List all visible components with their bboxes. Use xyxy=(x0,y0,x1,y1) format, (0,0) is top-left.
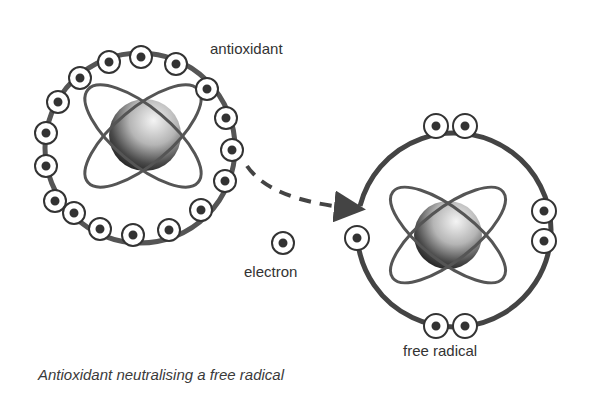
electron-icon xyxy=(190,199,212,221)
electron-icon xyxy=(130,46,152,68)
electron-icon xyxy=(221,139,243,161)
electron-icon xyxy=(44,190,66,212)
electron-icon xyxy=(532,229,556,253)
antioxidant-molecule xyxy=(35,46,243,246)
free-electron-icon xyxy=(272,232,294,254)
electron-icon xyxy=(196,78,218,100)
electron-icon xyxy=(453,114,477,138)
electron-icon xyxy=(63,202,85,224)
electron-icon xyxy=(165,53,187,75)
electron-icon xyxy=(424,114,448,138)
electron-icon xyxy=(214,170,236,192)
electron-label: electron xyxy=(244,263,297,280)
electron-icon xyxy=(35,155,57,177)
electron-icon xyxy=(532,199,556,223)
electron-icon xyxy=(35,122,57,144)
electron-icon xyxy=(98,51,120,73)
electron-icon xyxy=(215,107,237,129)
electron-icon xyxy=(69,67,91,89)
electron-icon xyxy=(424,314,448,338)
figure-caption: Antioxidant neutralising a free radical xyxy=(38,366,284,383)
electron-icon xyxy=(89,218,111,240)
transfer-arrow xyxy=(247,166,350,208)
electron-icon xyxy=(47,91,69,113)
antioxidant-diagram xyxy=(0,0,596,399)
free-radical-label: free radical xyxy=(403,342,477,359)
antioxidant-label: antioxidant xyxy=(210,40,283,57)
unpaired-electron-icon xyxy=(345,226,369,250)
electron-icon xyxy=(453,314,477,338)
free-radical-molecule xyxy=(345,114,556,338)
antioxidant-nucleus xyxy=(70,68,216,203)
electron-icon xyxy=(158,219,180,241)
electron-icon xyxy=(122,224,144,246)
free-radical-nucleus xyxy=(377,171,519,298)
